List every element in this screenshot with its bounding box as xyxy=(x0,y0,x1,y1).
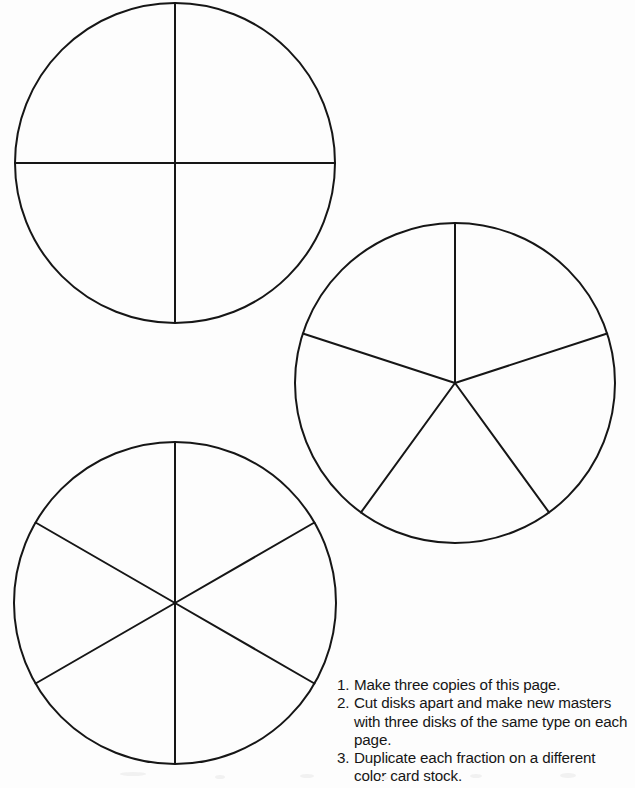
instructions-list: 1. Make three copies of this page. 2. Cu… xyxy=(337,676,629,786)
fifths-disk-radius-2 xyxy=(455,334,607,383)
scan-speck xyxy=(120,772,146,776)
scan-speck xyxy=(470,774,482,778)
list-item: 1. Make three copies of this page. xyxy=(337,676,629,694)
sixths-disk-radius-3 xyxy=(175,603,314,684)
scan-speck xyxy=(300,774,314,778)
worksheet-page: 1. Make three copies of this page. 2. Cu… xyxy=(0,0,635,788)
fraction-disks-figure xyxy=(0,0,635,788)
scan-speck xyxy=(215,775,225,779)
list-item-number: 2. xyxy=(337,694,354,712)
list-item-number: 1. xyxy=(337,676,354,694)
list-item: 2. Cut disks apart and make new masters … xyxy=(337,694,629,749)
fifths-disk-radius-3 xyxy=(455,383,549,512)
sixths-disk xyxy=(14,442,336,764)
scan-speck xyxy=(380,776,388,780)
fourths-disk xyxy=(15,3,335,323)
scan-speck xyxy=(560,773,576,778)
sixths-disk-radius-2 xyxy=(175,523,314,604)
list-item-text: Make three copies of this page. xyxy=(354,676,629,694)
fifths-disk-radius-5 xyxy=(303,334,455,383)
fifths-disk xyxy=(295,223,615,543)
fifths-disk-radius-4 xyxy=(361,383,455,512)
list-item: 3. Duplicate each fraction on a differen… xyxy=(337,749,629,786)
sixths-disk-radius-5 xyxy=(36,603,175,684)
list-item-number: 3. xyxy=(337,749,354,767)
list-item-text: Cut disks apart and make new masters wit… xyxy=(354,694,629,749)
list-item-text: Duplicate each fraction on a different c… xyxy=(354,749,629,786)
sixths-disk-radius-6 xyxy=(36,523,175,604)
disks-group xyxy=(14,3,615,764)
